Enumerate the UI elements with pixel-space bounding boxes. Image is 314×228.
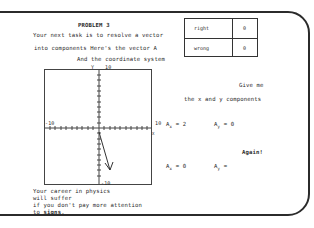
footer-suffix: . — [61, 209, 65, 215]
attempt2-ax: Ax = 0 — [166, 163, 186, 172]
ax-subscript: x — [170, 124, 173, 129]
y-min-label: -10 — [101, 180, 110, 187]
ay-value: = — [224, 163, 228, 169]
ax-subscript: x — [170, 166, 173, 171]
x-min-label: -10 — [45, 120, 54, 127]
ax-value: = 2 — [176, 121, 187, 127]
footer-line-1: Your career in physics — [33, 188, 110, 195]
x-axis-label: X — [152, 130, 155, 137]
ax-value: = 0 — [176, 163, 187, 169]
attempt2-ay-input[interactable]: Ay = — [214, 163, 227, 172]
attempt1-ay: Ay = 0 — [214, 121, 234, 130]
y-axis-label: Y — [91, 64, 94, 71]
prompt-line-1: Give me — [239, 82, 264, 89]
footer-line-4: to signs. — [33, 209, 65, 216]
footer-line-2: will suffer — [33, 195, 72, 202]
attempt1-ax: Ax = 2 — [166, 121, 186, 130]
x-max-label: 10 — [155, 120, 161, 127]
prompt-line-2: the x and y components — [184, 96, 261, 103]
ay-subscript: y — [218, 166, 221, 171]
ay-subscript: y — [218, 124, 221, 129]
y-max-label: 10 — [105, 64, 111, 71]
feedback-message: Again! — [242, 149, 263, 156]
footer-emphasis: signs — [44, 209, 62, 215]
footer-line-3: if you don't pay more attention — [33, 202, 142, 209]
footer-prefix: to — [33, 209, 44, 215]
ay-value: = 0 — [224, 121, 235, 127]
